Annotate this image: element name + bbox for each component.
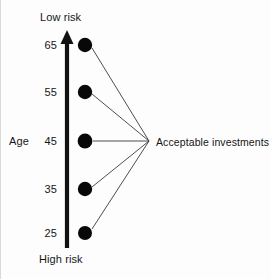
low-risk-label: Low risk	[40, 11, 81, 23]
connector-line-35	[92, 141, 149, 187]
risk-age-diagram: Low risk High risk Age 65 55 45 35 25 Ac…	[0, 0, 271, 279]
data-point-55	[78, 85, 92, 99]
data-point-45	[78, 134, 93, 149]
tick-label-35: 35	[31, 183, 57, 195]
tick-label-65: 65	[31, 39, 57, 51]
data-points	[78, 38, 93, 240]
data-point-65	[78, 38, 92, 52]
axis-name-age: Age	[9, 135, 29, 147]
connector-lines	[92, 48, 149, 229]
data-point-35	[78, 182, 92, 196]
age-axis	[61, 30, 74, 248]
tick-label-45: 45	[31, 135, 57, 147]
tick-label-55: 55	[31, 86, 57, 98]
connector-line-55	[92, 94, 149, 141]
high-risk-label: High risk	[39, 253, 83, 265]
connector-line-25	[92, 141, 149, 229]
acceptable-investments-label: Acceptable investments	[156, 136, 269, 148]
tick-label-25: 25	[31, 227, 57, 239]
arrow-up-icon	[61, 30, 74, 44]
data-point-25	[78, 226, 92, 240]
connector-line-65	[92, 48, 149, 141]
